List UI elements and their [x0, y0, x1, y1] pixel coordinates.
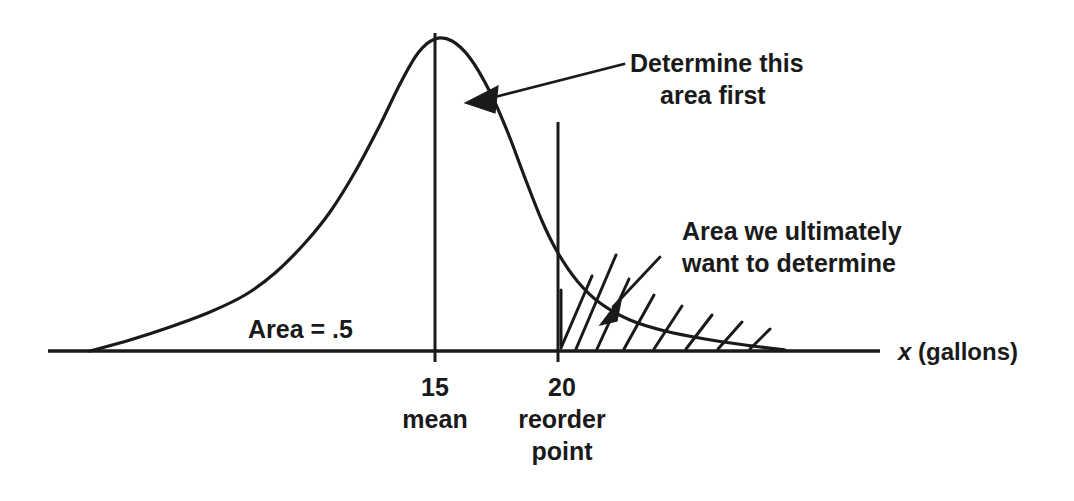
area-half-label: Area = .5 — [248, 315, 353, 343]
tick-caption-mean: mean — [402, 405, 467, 433]
right-callout-line2: want to determine — [681, 249, 896, 277]
right-callout-line1: Area we ultimately — [682, 217, 902, 245]
hatch-line — [654, 306, 682, 349]
top-callout-line1: Determine this — [630, 49, 804, 77]
hatch-line — [561, 276, 592, 348]
hatch-line — [686, 315, 712, 349]
tick-caption-point: point — [531, 437, 593, 465]
tick-value-15: 15 — [421, 373, 449, 401]
top-callout-leader-line — [487, 64, 624, 99]
tick-value-20: 20 — [548, 373, 576, 401]
right-callout-arrowhead — [600, 296, 622, 325]
diagram-canvas: Area = .5 Determine this area first Area… — [0, 0, 1074, 501]
top-callout-arrowhead — [465, 86, 498, 113]
x-axis-label: x (gallons) — [896, 338, 1018, 365]
x-axis-label-units: (gallons) — [911, 338, 1018, 365]
right-callout-pointer — [600, 257, 660, 325]
top-callout-line2: area first — [660, 81, 766, 109]
distribution-figure: Area = .5 Determine this area first Area… — [0, 0, 1074, 501]
tick-caption-reorder: reorder — [518, 405, 606, 433]
hatch-line — [624, 295, 654, 349]
